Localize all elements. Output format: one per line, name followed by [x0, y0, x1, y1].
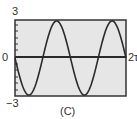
x-min-label: 0 [2, 52, 8, 63]
figure-caption: (C) [60, 106, 75, 117]
y-min-label: −3 [6, 98, 19, 109]
x-max-label: 2τ [128, 52, 137, 63]
y-max-label: 3 [12, 6, 18, 17]
graph-window [0, 0, 137, 119]
